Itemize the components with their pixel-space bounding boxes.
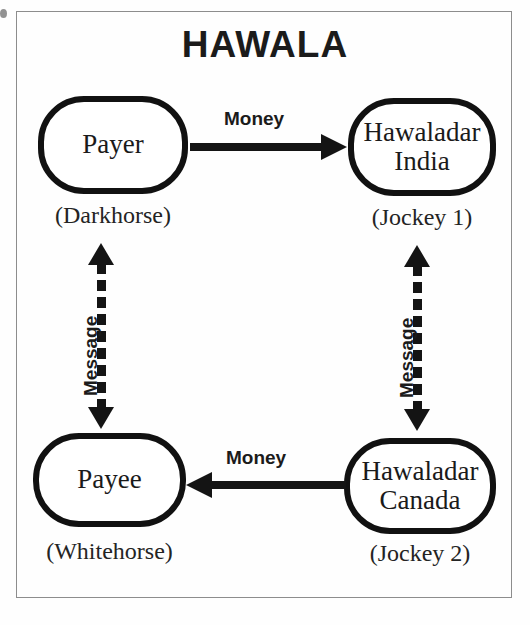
node-hawaladar-canada-alias: (Jockey 2) xyxy=(344,540,496,567)
node-hawaladar-canada: Hawaladar Canada xyxy=(344,438,496,534)
node-hawaladar-india: Hawaladar India xyxy=(348,98,496,196)
node-hawaladar-canada-label-line1: Hawaladar xyxy=(362,458,479,486)
arrowhead-up-icon xyxy=(88,243,114,265)
arrowhead-down-icon xyxy=(404,409,430,431)
scan-artifact-mark xyxy=(0,9,7,18)
node-payer-alias: (Darkhorse) xyxy=(38,202,188,229)
arrowhead-right-icon xyxy=(321,134,347,160)
arrowhead-up-icon xyxy=(404,245,430,267)
arrow-shaft xyxy=(190,143,325,151)
node-hawaladar-india-alias: (Jockey 1) xyxy=(348,204,496,231)
node-hawaladar-india-label-line2: India xyxy=(394,148,449,176)
node-payee-label-line1: Payee xyxy=(77,466,141,494)
node-payer-label-line1: Payer xyxy=(82,131,143,159)
arrow-shaft xyxy=(212,481,346,489)
edge-label-message-left: Message xyxy=(80,316,102,396)
diagram-title: HAWALA xyxy=(0,26,530,63)
node-payee-alias: (Whitehorse) xyxy=(28,538,191,565)
node-hawaladar-india-label-line1: Hawaladar xyxy=(364,119,481,147)
arrowhead-down-icon xyxy=(88,407,114,429)
edge-label-money-top: Money xyxy=(224,108,284,130)
node-hawaladar-canada-label-line2: Canada xyxy=(380,487,461,515)
edge-label-money-bottom: Money xyxy=(226,447,286,469)
arrow-money-hawaladar-canada-to-payee xyxy=(186,472,346,498)
hawala-diagram-canvas: HAWALA Payer (Darkhorse) Hawaladar India… xyxy=(0,0,530,625)
node-payer: Payer xyxy=(38,96,188,194)
edge-label-message-right: Message xyxy=(396,318,418,398)
node-payee: Payee xyxy=(33,433,186,527)
arrowhead-left-icon xyxy=(186,472,212,498)
arrow-money-payer-to-hawaladar-india xyxy=(190,134,350,160)
